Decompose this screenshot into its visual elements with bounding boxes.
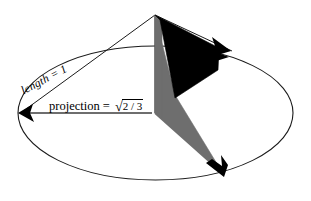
radicand-value: 2 / 3 [122,99,144,114]
projection-label: projection = √2 / 3 [49,99,143,114]
projection-label-text: projection = [49,99,113,113]
cone-projection-figure: length = 1 projection = √2 / 3 [0,0,311,201]
square-root-expression: √2 / 3 [115,99,143,114]
gray-axis-face [155,15,162,118]
cone-left-slant-edge [22,15,155,112]
cone-diagram-svg [0,0,311,201]
